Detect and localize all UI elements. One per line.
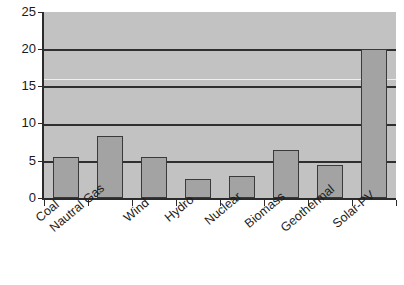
bar-wind[interactable] <box>141 157 167 198</box>
bar-slot-coal <box>44 12 88 198</box>
bar-slot-wind <box>132 12 176 198</box>
bars-layer <box>44 12 396 198</box>
plot-area <box>44 12 396 198</box>
y-tick-label-15: 15 <box>2 79 36 92</box>
y-tick-label-10: 10 <box>2 116 36 129</box>
x-label-hydro: Hydro <box>162 193 197 225</box>
x-label-wind: Wind <box>121 196 152 225</box>
bar-solar-pv[interactable] <box>361 49 387 198</box>
y-tick-label-5: 5 <box>2 154 36 167</box>
bar-slot-geothermal <box>308 12 352 198</box>
bar-coal[interactable] <box>53 157 79 198</box>
bar-slot-natural-gas <box>88 12 132 198</box>
bar-slot-biomass <box>264 12 308 198</box>
bar-slot-hydro <box>176 12 220 198</box>
y-axis: 25 20 15 10 5 0 <box>0 0 36 210</box>
bar-slot-solar-pv <box>352 12 396 198</box>
y-tick-label-20: 20 <box>2 42 36 55</box>
y-tick-label-25: 25 <box>2 5 36 18</box>
bar-slot-nuclear <box>220 12 264 198</box>
bar-chart: 25 20 15 10 5 0 <box>0 0 404 285</box>
x-axis-labels: Coal Nautral Gas Wind Hydro Nuclear Biom… <box>0 198 404 285</box>
